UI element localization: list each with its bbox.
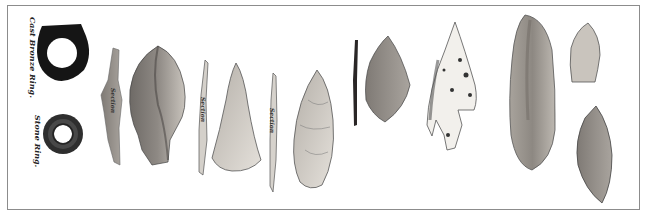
cast-bronze-ring	[37, 24, 89, 81]
barbed-arrowhead	[427, 22, 476, 150]
diamond-point	[366, 36, 411, 122]
section-label-1: Section	[110, 88, 117, 113]
long-blade	[510, 15, 555, 170]
stone-ring-label: Stone Ring.	[33, 115, 43, 167]
section-label-3: Section	[269, 108, 276, 133]
artifact-plate-illustration	[0, 0, 649, 217]
oval-point	[577, 106, 612, 203]
stone-ring	[43, 114, 83, 154]
triangular-point	[212, 63, 261, 171]
thin-rod	[353, 40, 358, 126]
small-stemmed-point	[570, 23, 600, 82]
cast-bronze-ring-label: Cast Bronze Ring.	[28, 17, 38, 98]
section-label-2: Section	[200, 97, 207, 122]
